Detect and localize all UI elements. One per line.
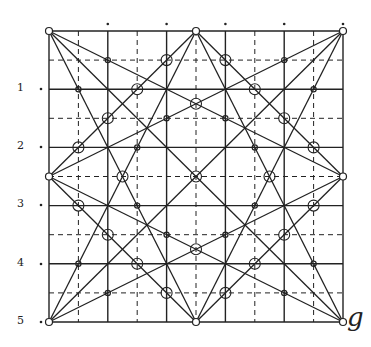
row-label-dot <box>40 88 43 91</box>
vertex-circle <box>193 319 200 326</box>
star-grid-diagram: 12345 g <box>0 0 371 347</box>
vertex-circle <box>193 28 200 35</box>
vertex-circle <box>340 28 347 35</box>
corner-label-g: g <box>347 302 364 332</box>
vertex-circle <box>46 28 53 35</box>
vertex-circle <box>46 319 53 326</box>
row-label-dot <box>40 204 43 207</box>
vertex-circle <box>340 319 347 326</box>
row-label-dot <box>40 146 43 149</box>
row-label-dot <box>40 321 43 324</box>
row-label-dot <box>40 263 43 266</box>
vertex-circle <box>46 173 53 180</box>
vertex-circle <box>340 173 347 180</box>
tick-dot <box>224 23 227 26</box>
tick-dot <box>342 23 345 26</box>
tick-dot <box>283 23 286 26</box>
tick-dot <box>107 23 110 26</box>
row-label: 2 <box>17 139 24 152</box>
row-label: 1 <box>17 81 24 94</box>
row-label: 5 <box>17 314 24 327</box>
row-label: 4 <box>17 256 24 269</box>
geometric-figure <box>0 0 371 347</box>
tick-dot <box>165 23 168 26</box>
row-label: 3 <box>17 197 24 210</box>
